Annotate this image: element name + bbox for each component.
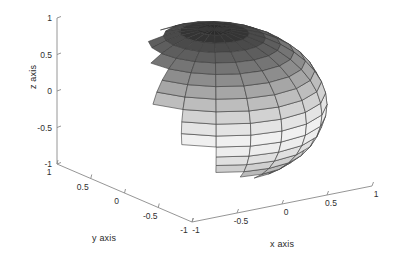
y-axis-tick — [158, 204, 159, 208]
surface-facet — [216, 74, 244, 87]
y-tick-label: -1 — [180, 225, 188, 235]
z-tick-label: -0.5 — [37, 123, 52, 133]
z-axis-tick — [57, 90, 61, 92]
x-tick-label: -1 — [192, 225, 200, 235]
surface-facet — [216, 156, 249, 165]
x-tick-label: 0 — [284, 207, 289, 217]
z-tick-label: 0 — [47, 86, 52, 96]
z-axis-title: z axis — [28, 57, 38, 97]
surface-facet — [191, 62, 216, 75]
surface-facet — [185, 85, 216, 100]
z-tick-label: 1 — [47, 13, 52, 23]
x-tick-label: 0.5 — [325, 198, 337, 208]
plot-canvas: -1-0.500.5110.50-0.5-110.50-0.5-1 — [0, 0, 399, 265]
surface-facet — [216, 165, 247, 173]
z-axis-tick — [57, 17, 61, 19]
x-axis-tick — [372, 182, 374, 186]
z-tick-label: -1 — [44, 159, 52, 169]
z-axis-tick — [57, 53, 61, 55]
surface-facet — [183, 97, 216, 112]
x-tick-label: -0.5 — [234, 216, 249, 226]
surface-facet — [216, 86, 247, 99]
surface-facet — [216, 111, 250, 124]
surface-facet — [216, 98, 249, 111]
surface-facet — [216, 135, 251, 147]
surface-facet — [188, 73, 216, 87]
x-tick-label: 1 — [374, 189, 379, 199]
surface-facet — [216, 123, 251, 136]
y-tick-label: -0.5 — [143, 211, 158, 221]
z-tick-label: 0.5 — [40, 50, 52, 60]
y-axis-tick — [91, 175, 92, 179]
y-axis-title: y axis — [92, 233, 116, 243]
y-tick-label: 0.5 — [77, 182, 89, 192]
y-axis-tick — [125, 189, 126, 193]
sphere-surface — [148, 22, 327, 179]
y-tick-label: 0 — [114, 196, 119, 206]
surface-plot-figure: -1-0.500.5110.50-0.5-110.50-0.5-1 z axis… — [0, 0, 399, 265]
x-axis-title: x axis — [270, 239, 294, 249]
z-axis-tick — [57, 126, 61, 128]
surface-facet — [216, 146, 250, 157]
